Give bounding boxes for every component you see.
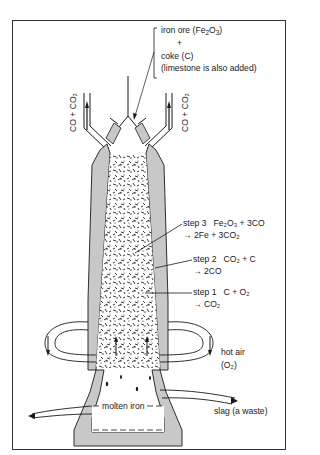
charging-hopper [110, 76, 146, 127]
exhaust-pipe-left [84, 93, 111, 150]
hot-air-label: hot air [221, 347, 245, 358]
step-2-label: step 2 CO₂ + C [193, 254, 256, 265]
exhaust-label-right: CO + CO₂ [180, 93, 190, 132]
step-2-product: → 2CO [193, 266, 222, 277]
slag-label: slag (a waste) [214, 406, 268, 417]
input-iron-ore: iron ore (Fe2O3) [161, 25, 222, 36]
hot-air-formula: (O₂) [221, 360, 237, 371]
step-3-product: → 2Fe + 3CO₂ [183, 230, 240, 241]
molten-iron-label: molten iron [101, 401, 146, 412]
exhaust-label-left: CO + CO₂ [68, 93, 78, 132]
step-3-label: step 3 Fe₂O₃ + 3CO [183, 218, 265, 229]
input-coke: coke (C) [161, 51, 193, 62]
input-plus: + [177, 38, 182, 49]
input-limestone: (limestone is also added) [161, 63, 257, 74]
slag-tap-pipe [160, 390, 235, 404]
step-1-product: → CO₂ [193, 299, 220, 310]
exhaust-pipe-right [145, 93, 172, 150]
step-1-label: step 1 C + O₂ [193, 287, 250, 298]
